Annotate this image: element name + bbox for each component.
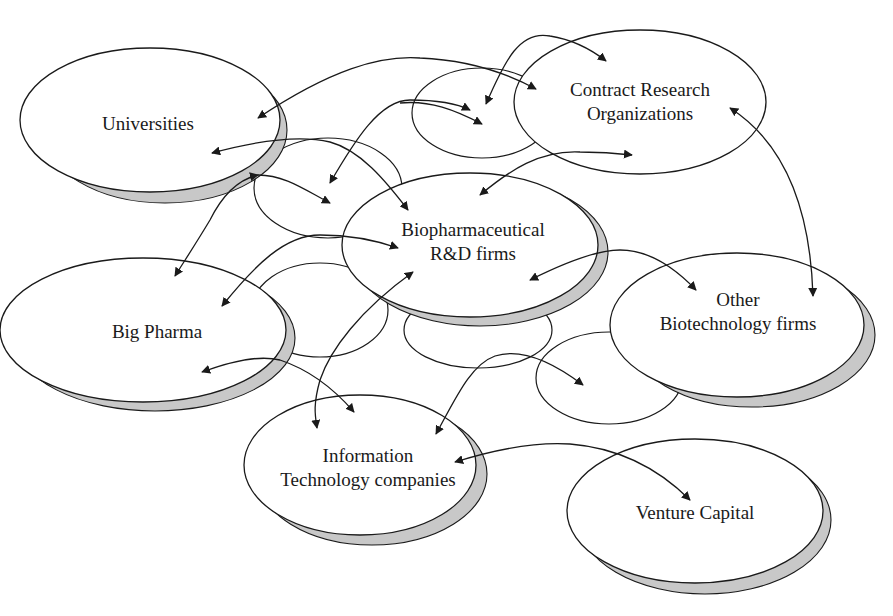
label-biopharma: Biopharmaceutical R&D firms [401,218,545,266]
label-info-tech: Information Technology companies [280,444,455,492]
label-universities: Universities [102,112,194,136]
label-line: Contract Research [570,78,710,102]
edge-other-biotech-infotech [436,354,583,434]
label-other-biotech: Other Biotechnology firms [660,288,817,336]
label-line: Big Pharma [112,320,202,344]
label-line: Organizations [570,102,710,126]
label-line: Technology companies [280,468,455,492]
label-line: Biotechnology firms [660,312,817,336]
label-cro: Contract Research Organizations [570,78,710,126]
label-big-pharma: Big Pharma [112,320,202,344]
edge-universities-ellipse2 [258,175,330,203]
label-line: Venture Capital [636,501,755,525]
label-line: Biopharmaceutical [401,218,545,242]
label-line: Other [660,288,817,312]
label-line: R&D firms [401,242,545,266]
label-line: Universities [102,112,194,136]
edge-universities-cro [258,58,536,118]
edge-ellipse1-down [330,100,470,183]
label-line: Information [280,444,455,468]
label-venture-capital: Venture Capital [636,501,755,525]
